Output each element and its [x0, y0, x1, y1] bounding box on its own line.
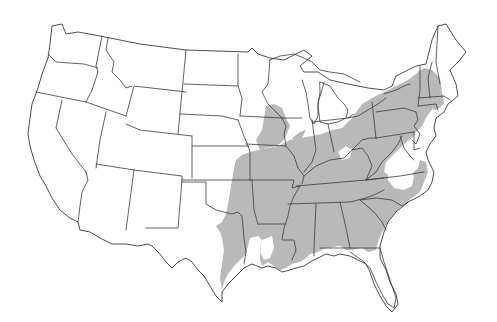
border-co-nm	[134, 170, 182, 180]
border-or-ca-nv	[36, 92, 126, 116]
border-id-mt	[106, 38, 132, 88]
border-wa-id	[92, 36, 102, 90]
border-or-id	[86, 90, 92, 102]
border-nd-mn	[238, 54, 242, 116]
border-wa-or	[48, 54, 98, 68]
border-ut-az	[96, 164, 134, 170]
lake-superior-shore	[270, 54, 360, 82]
lake-michigan-shore	[302, 80, 324, 124]
border-az-nm	[126, 170, 134, 230]
us-range-map	[0, 0, 497, 322]
border-nm-tx	[146, 180, 182, 228]
border-wy-ut-co	[126, 124, 192, 136]
border-sd-ne	[180, 114, 238, 120]
border-nv-ut	[96, 112, 106, 168]
florida-peninsula	[350, 248, 396, 308]
border-nd-sd	[184, 84, 238, 86]
border-ne-ia	[238, 120, 248, 146]
border-ca-az	[78, 172, 88, 222]
border-ca-nv	[56, 100, 86, 172]
border-id-wy-ut	[126, 86, 186, 116]
map-svg	[0, 0, 497, 322]
